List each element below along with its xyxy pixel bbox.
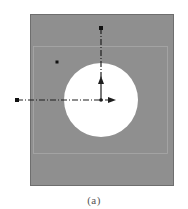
- vertical-axis-end-marker: [99, 26, 103, 30]
- diagram-figure: [0, 0, 188, 209]
- horizontal-axis-end-marker: [15, 98, 19, 102]
- origin-point: [99, 98, 103, 102]
- point-marker: [56, 61, 59, 64]
- figure-caption: (a): [0, 194, 188, 206]
